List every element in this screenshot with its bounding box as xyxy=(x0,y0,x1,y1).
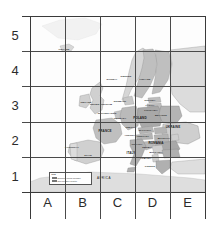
gridline-horizontal-top xyxy=(22,16,206,17)
country-label-lithuania: LITHUANIA xyxy=(144,109,157,111)
gridline-vertical-d-e xyxy=(170,16,171,219)
gridline-vertical-a-b xyxy=(65,16,66,219)
country-label-spain: SPAIN xyxy=(84,154,91,156)
country-label-latvia: LATVIA xyxy=(146,104,155,106)
column-label-c: C xyxy=(100,196,135,209)
gridline-horizontal-2-1 xyxy=(22,157,206,158)
country-label-hungary: HUNGARY xyxy=(137,135,149,137)
legend-swatch-non-member xyxy=(52,180,57,182)
country-label-germany: GERMANY xyxy=(114,117,127,119)
country-label-bulgaria: BULGARIA xyxy=(149,151,162,153)
gridline-horizontal-5-4 xyxy=(22,51,206,52)
country-label-serbia: SERBIA xyxy=(142,146,151,148)
map-legend: Key European Union member Non-member cou… xyxy=(49,172,92,185)
country-label-croatia: CROATIA xyxy=(131,143,142,145)
country-label-iceland: ICELAND xyxy=(58,48,69,50)
country-label-austria: AUSTRIA xyxy=(124,134,135,136)
country-label-finland: FINLAND xyxy=(140,78,151,80)
column-label-d: D xyxy=(135,196,170,209)
country-label-estonia: ESTONIA xyxy=(144,99,155,101)
row-label-3: 3 xyxy=(0,99,30,112)
row-label-5: 5 xyxy=(0,29,30,42)
country-label-norway: NORWAY xyxy=(107,78,118,80)
country-label-belarus: BELARUS xyxy=(155,114,167,116)
row-label-1: 1 xyxy=(0,170,30,183)
gridline-vertical-c-d xyxy=(135,16,136,219)
column-label-a: A xyxy=(30,196,65,209)
legend-label-non-member: Non-member country xyxy=(58,180,78,182)
map-canvas xyxy=(30,16,205,192)
country-label-denmark: DENMARK xyxy=(114,100,127,102)
country-label-united-kingdom: UNITED KINGDOM xyxy=(90,103,112,105)
europe-map-svg xyxy=(30,16,205,192)
country-label-ukraine: UKRAINE xyxy=(166,125,181,129)
country-label-greece: GREECE xyxy=(145,165,155,167)
country-label-moldova: MOLDOVA xyxy=(158,137,170,139)
moldova-shape xyxy=(171,134,179,141)
country-label-romania: ROMANIA xyxy=(148,141,163,145)
column-label-b: B xyxy=(65,196,100,209)
gridline-vertical-left xyxy=(30,16,31,219)
legend-swatch-eu-member xyxy=(52,177,57,179)
country-label-sweden: SWEDEN xyxy=(121,75,132,77)
gridline-horizontal-bottom xyxy=(22,192,206,193)
legend-entry: Non-member country xyxy=(52,180,90,182)
column-label-e: E xyxy=(170,196,205,209)
row-label-2: 2 xyxy=(0,134,30,147)
gridline-vertical-right xyxy=(205,16,206,219)
country-label-portugal: PORTUGAL xyxy=(65,146,79,148)
gridline-vertical-b-c xyxy=(100,16,101,219)
gridline-horizontal-4-3 xyxy=(22,86,206,87)
row-label-4: 4 xyxy=(0,64,30,77)
gridline-horizontal-3-2 xyxy=(22,122,206,123)
country-label-slovakia: SLOVAKIA xyxy=(139,129,152,131)
gridded-map-figure: ICELAND NORWAY SWEDEN FINLAND RUSSIA EST… xyxy=(0,0,215,225)
